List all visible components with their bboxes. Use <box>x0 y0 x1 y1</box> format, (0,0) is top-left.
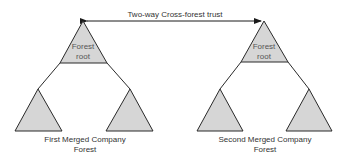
root-label-line1: Forest <box>244 42 284 52</box>
trust-label: Two-way Cross-forest trust <box>120 10 230 20</box>
root-label-line2: root <box>63 52 103 62</box>
second-forest-tree <box>197 21 332 131</box>
domain-triangle <box>197 89 243 131</box>
domain-triangle <box>286 89 332 131</box>
forest-root-label-left: Forest root <box>63 42 103 62</box>
domain-triangle <box>15 89 62 131</box>
root-label-line1: Forest <box>63 42 103 52</box>
caption-line2: Forest <box>200 145 330 155</box>
forest-root-label-right: Forest root <box>244 42 284 62</box>
first-forest-caption: First Merged Company Forest <box>25 135 145 155</box>
caption-line2: Forest <box>25 145 145 155</box>
caption-line1: Second Merged Company <box>200 135 330 145</box>
root-label-line2: root <box>244 52 284 62</box>
second-forest-caption: Second Merged Company Forest <box>200 135 330 155</box>
caption-line1: First Merged Company <box>25 135 145 145</box>
domain-triangle <box>106 89 153 131</box>
first-forest-tree <box>15 21 153 131</box>
